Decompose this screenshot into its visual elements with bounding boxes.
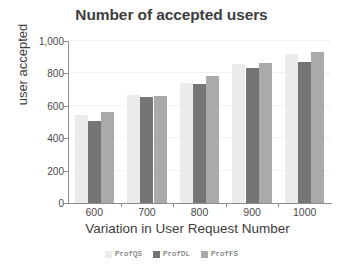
- x-axis-tick-label: 700: [138, 206, 156, 218]
- legend-label: ProfDL: [163, 250, 190, 258]
- y-axis-tick-mark: [64, 203, 68, 204]
- legend-swatch-icon: [105, 251, 112, 258]
- y-axis-tick-label: 400: [18, 133, 64, 144]
- x-axis-tick-labels: 6007008009001000: [68, 206, 332, 220]
- legend-item-ProfQS[interactable]: ProfQS: [105, 250, 142, 258]
- legend-swatch-icon: [201, 251, 208, 258]
- bar-ProfFS-1000: [311, 52, 324, 203]
- y-axis-tick-labels: 02004006008001,000: [14, 41, 64, 203]
- chart-legend: ProfQSProfDLProfFS: [0, 250, 343, 258]
- bar-ProfQS-900: [232, 64, 245, 203]
- x-axis-tick-label: 900: [243, 206, 261, 218]
- bar-ProfQS-700: [127, 95, 140, 203]
- bar-ProfFS-700: [154, 96, 167, 203]
- chart-title: Number of accepted users: [0, 6, 343, 24]
- gridline: [68, 40, 331, 41]
- y-axis-tick-mark: [64, 73, 68, 74]
- bar-ProfFS-800: [206, 76, 219, 203]
- x-axis-tick-mark: [226, 203, 227, 207]
- y-axis-line: [68, 41, 69, 204]
- legend-label: ProfQS: [115, 250, 142, 258]
- x-axis-tick-mark: [121, 203, 122, 207]
- y-axis-tick-label: 0: [18, 198, 64, 209]
- x-axis-tick-label: 1000: [293, 206, 316, 218]
- legend-swatch-icon: [153, 251, 160, 258]
- y-axis-tick-mark: [64, 106, 68, 107]
- legend-label: ProfFS: [211, 250, 238, 258]
- y-axis-tick-label: 200: [18, 165, 64, 176]
- bar-ProfDL-600: [88, 121, 101, 203]
- bar-ProfFS-900: [259, 63, 272, 203]
- legend-item-ProfDL[interactable]: ProfDL: [153, 250, 190, 258]
- x-axis-line: [68, 203, 332, 204]
- chart-figure: Number of accepted users user accepted 0…: [0, 0, 343, 273]
- y-axis-tick-label: 800: [18, 68, 64, 79]
- x-axis-tick-label: 600: [86, 206, 104, 218]
- bar-ProfDL-900: [246, 68, 259, 203]
- bar-ProfQS-1000: [285, 54, 298, 203]
- y-axis-tick-mark: [64, 171, 68, 172]
- bar-ProfFS-600: [101, 112, 114, 203]
- bar-ProfQS-800: [180, 83, 193, 203]
- x-axis-tick-mark: [173, 203, 174, 207]
- y-axis-tick-mark: [64, 41, 68, 42]
- y-axis-tick-label: 1,000: [18, 36, 64, 47]
- x-axis-tick-mark: [278, 203, 279, 207]
- plot-area: [68, 41, 331, 203]
- x-axis-title: Variation in User Request Number: [40, 221, 335, 236]
- bar-ProfDL-700: [140, 97, 153, 203]
- y-axis-tick-label: 600: [18, 100, 64, 111]
- legend-item-ProfFS[interactable]: ProfFS: [201, 250, 238, 258]
- bar-ProfDL-1000: [298, 62, 311, 203]
- bar-ProfQS-600: [75, 115, 88, 203]
- y-axis-tick-mark: [64, 138, 68, 139]
- x-axis-tick-label: 800: [191, 206, 209, 218]
- bar-ProfDL-800: [193, 84, 206, 203]
